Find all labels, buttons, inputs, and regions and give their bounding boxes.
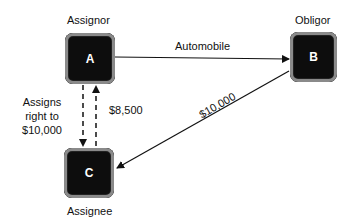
node-b-letter: B bbox=[309, 50, 318, 64]
node-a-letter: A bbox=[86, 52, 95, 66]
node-b: B bbox=[290, 32, 337, 82]
automobile-label: Automobile bbox=[175, 40, 230, 52]
node-c-letter: C bbox=[85, 166, 94, 180]
arrow-a-to-b bbox=[115, 57, 289, 59]
obligor-label: Obligor bbox=[295, 14, 330, 26]
assignor-label: Assignor bbox=[67, 14, 110, 26]
assignee-label: Assignee bbox=[67, 205, 112, 217]
assigns-right-label: Assigns right to $10,000 bbox=[18, 95, 66, 137]
node-c: C bbox=[64, 148, 114, 198]
node-a: A bbox=[65, 33, 115, 84]
payment-8500-label: $8,500 bbox=[109, 104, 143, 116]
